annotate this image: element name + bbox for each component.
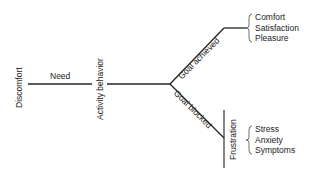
outcome-satisfaction: Satisfaction — [255, 23, 299, 34]
blocked-brace-icon — [246, 126, 252, 154]
achieved-outcomes-list: Comfort Satisfaction Pleasure — [255, 12, 299, 44]
outcome-anxiety: Anxiety — [255, 135, 295, 146]
outcome-pleasure: Pleasure — [255, 33, 299, 44]
need-label: Need — [50, 71, 70, 81]
activity-behavior-label: Activity behavior — [95, 58, 105, 120]
outcome-comfort: Comfort — [255, 12, 299, 23]
achieved-brace-icon — [246, 14, 252, 42]
frustration-label: Frustration — [228, 119, 238, 160]
discomfort-label: Discomfort — [14, 67, 24, 108]
outcome-stress: Stress — [255, 124, 295, 135]
outcome-symptoms: Symptoms — [255, 145, 295, 156]
blocked-outcomes-list: Stress Anxiety Symptoms — [255, 124, 295, 156]
